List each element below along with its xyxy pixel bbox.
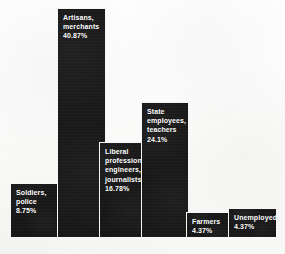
bar-label: Farmers [192,217,224,226]
bar-value: 4.37% [234,222,272,231]
bar-value: 16.78% [105,184,142,193]
bar-label: Soldiers, police [16,188,53,206]
bar-value: 24.1% [147,135,184,144]
bar-unemployed: Unemployed 4.37% [228,208,277,238]
bar-label: State employees, teachers [147,107,184,135]
bar-label: Artisans, merchants [63,13,101,31]
bar-value: 4.37% [192,226,224,235]
bar-soldiers-police: Soldiers, police 8.75% [10,183,58,238]
bar-value: 40.87% [63,31,101,40]
bar-state-employees-teachers: State employees, teachers 24.1% [141,102,189,238]
bar-chart: Soldiers, police 8.75% Artisans, merchan… [0,0,285,254]
bar-value: 8.75% [16,206,53,215]
bar-farmers: Farmers 4.37% [186,212,229,238]
bar-label: Unemployed [234,213,272,222]
bar-liberal-professions: Liberal professions, engineers, journali… [99,142,147,238]
bar-label: Liberal professions, engineers, journali… [105,147,142,184]
